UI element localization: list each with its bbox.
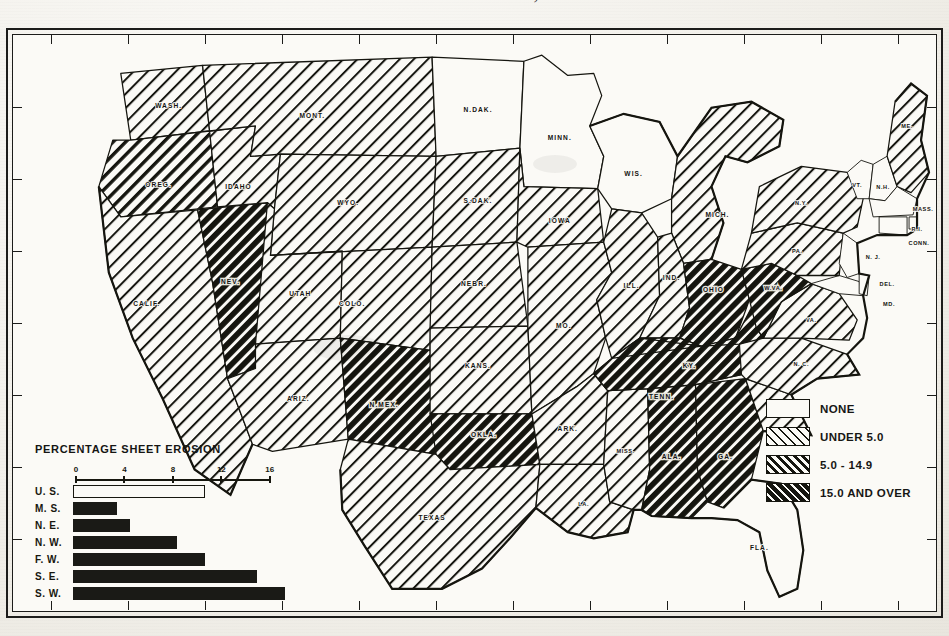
chart-bars: U. S.M. S.N. E.N. W.F. W.S. E.S. W. <box>35 483 335 602</box>
state-label-nebr: NEBR. <box>461 280 487 287</box>
state-label-calif: CALIF. <box>133 300 160 307</box>
page-title: UNITED STATES, 1934 <box>0 0 949 8</box>
state-label-okla: OKLA. <box>471 431 497 438</box>
erosion-bar-chart: PERCENTAGE SHEET EROSION 0481216 U. S.M.… <box>35 443 335 603</box>
state-label-iowa: IOWA <box>549 217 571 224</box>
legend-label-15-and-over: 15.0 AND OVER <box>820 487 911 499</box>
chart-bar-row: N. E. <box>35 517 335 534</box>
state-conn <box>879 217 907 235</box>
state-label-vt: VT. <box>852 182 862 188</box>
legend-swatch-under-5 <box>766 427 810 446</box>
state-label-minn: MINN. <box>548 134 572 141</box>
state-label-ky: KY. <box>683 362 697 369</box>
state-label-ala: ALA. <box>662 453 682 460</box>
state-label-wis: WIS. <box>624 170 643 177</box>
chart-bar-label: M. S. <box>35 503 73 514</box>
state-label-miss: MISS. <box>617 448 635 454</box>
chart-bar-label: N. W. <box>35 537 73 548</box>
state-label-tenn: TENN. <box>649 393 674 400</box>
state-label-pa: PA. <box>792 248 803 254</box>
state-label-ark: ARK. <box>558 425 578 432</box>
map-inner-frame: 125120115110105100959085807570 125120115… <box>12 34 937 612</box>
legend-item: NONE <box>766 399 916 418</box>
legend-label-5-to-14: 5.0 - 14.9 <box>820 459 873 471</box>
state-label-idaho: IDAHO <box>225 183 252 190</box>
legend-label-under-5: UNDER 5.0 <box>820 431 884 443</box>
chart-bar <box>73 536 177 549</box>
state-label-ill: ILL. <box>624 282 640 289</box>
chart-x-tick: 16 <box>269 476 271 483</box>
chart-x-tick-label: 4 <box>113 465 135 474</box>
state-label-ndak: N.DAK. <box>463 106 492 113</box>
legend-item: UNDER 5.0 <box>766 427 916 446</box>
legend-swatch-none <box>766 399 810 418</box>
chart-bar <box>73 485 205 498</box>
chart-bar-row: M. S. <box>35 500 335 517</box>
state-label-nc: N. C. <box>793 361 809 367</box>
chart-bar <box>73 519 130 532</box>
state-label-ind: IND. <box>663 274 681 281</box>
state-nj <box>839 233 859 277</box>
state-label-fla: FLA. <box>750 544 769 551</box>
state-label-ri: R.I. <box>912 226 923 232</box>
chart-x-tick: 0 <box>75 476 77 483</box>
chart-x-tick-label: 16 <box>259 465 281 474</box>
chart-x-tick: 12 <box>220 476 222 483</box>
state-me <box>887 84 929 193</box>
state-label-mich: MICH. <box>705 211 729 218</box>
legend-item: 5.0 - 14.9 <box>766 455 916 474</box>
state-label-wash: WASH. <box>155 102 182 109</box>
chart-bar <box>73 553 205 566</box>
state-label-mo: MO. <box>556 322 572 329</box>
chart-x-tick: 8 <box>172 476 174 483</box>
chart-bar-row: S. E. <box>35 568 335 585</box>
state-nmex <box>340 338 436 454</box>
state-oreg <box>99 131 218 217</box>
state-label-del: DEL. <box>880 281 895 287</box>
state-label-ariz: ARIZ. <box>287 395 310 402</box>
state-label-ga: GA. <box>718 453 733 460</box>
state-label-la: LA. <box>578 501 589 507</box>
state-label-wyo: WYO. <box>337 199 359 206</box>
state-label-wva: W.VA. <box>764 285 782 291</box>
state-label-me: ME. <box>901 123 913 129</box>
state-label-mont: MONT. <box>299 112 325 119</box>
state-label-nev: NEV. <box>221 278 240 285</box>
legend-swatch-15-and-over <box>766 483 810 502</box>
chart-bar-row: S. W. <box>35 585 335 602</box>
state-label-ohio: OHIO <box>703 286 724 293</box>
state-label-sdak: S.DAK. <box>464 197 493 204</box>
chart-x-tick: 4 <box>123 476 125 483</box>
state-label-oreg: OREG. <box>145 181 172 188</box>
chart-bar-label: S. E. <box>35 571 73 582</box>
chart-bar-row: U. S. <box>35 483 335 500</box>
state-label-va: VA. <box>806 317 817 323</box>
state-okla <box>430 414 540 470</box>
legend-swatch-5-to-14 <box>766 455 810 474</box>
chart-bar <box>73 570 257 583</box>
state-label-kans: KANS. <box>465 362 491 369</box>
state-kans <box>430 326 532 414</box>
chart-bar <box>73 587 285 600</box>
chart-bar-row: N. W. <box>35 534 335 551</box>
legend-label-none: NONE <box>820 403 855 415</box>
state-label-nmex: N.MEX. <box>370 401 399 408</box>
state-label-texas: TEXAS <box>418 514 445 521</box>
state-label-utah: UTAH <box>289 290 311 297</box>
state-label-nj: N. J. <box>866 254 881 260</box>
chart-bar-label: U. S. <box>35 486 73 497</box>
chart-bar <box>73 502 117 515</box>
state-label-ny: N.Y. <box>795 200 808 206</box>
chart-bar-row: F. W. <box>35 551 335 568</box>
map-legend: NONE UNDER 5.0 5.0 - 14.9 15.0 AND OVER <box>766 399 916 511</box>
legend-item: 15.0 AND OVER <box>766 483 916 502</box>
chart-x-tick-label: 0 <box>65 465 87 474</box>
state-label-md: MD. <box>883 301 895 307</box>
chart-x-axis: 0481216 <box>75 467 293 483</box>
chart-x-tick-label: 8 <box>162 465 184 474</box>
chart-bar-label: N. E. <box>35 520 73 531</box>
chart-bar-label: F. W. <box>35 554 73 565</box>
chart-bar-label: S. W. <box>35 588 73 599</box>
state-label-colo: COLO. <box>339 300 365 307</box>
state-label-conn: CONN. <box>909 240 930 246</box>
